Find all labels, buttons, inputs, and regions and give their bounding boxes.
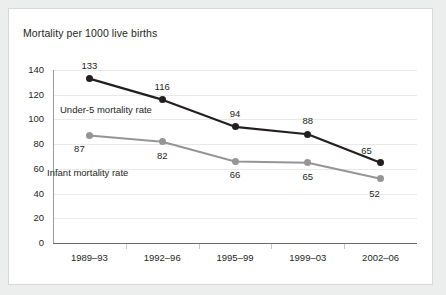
- data-value-label: 88: [288, 116, 328, 126]
- data-value-label: 66: [215, 170, 255, 180]
- chart-figure: Mortality per 1000 live births 020406080…: [0, 0, 446, 295]
- data-value-label: 65: [347, 146, 387, 156]
- series-annotation-0: Under-5 mortality rate: [60, 104, 152, 115]
- data-value-label: 82: [142, 151, 182, 161]
- data-point: [232, 158, 239, 165]
- data-value-label: 94: [215, 109, 255, 119]
- series-line-0: [89, 79, 380, 163]
- series-annotation-1: Infant mortality rate: [47, 167, 128, 178]
- data-value-label: 65: [288, 172, 328, 182]
- data-value-label: 87: [59, 144, 99, 154]
- data-value-label: 116: [142, 82, 182, 92]
- data-point: [159, 138, 166, 145]
- plot-area: 0204060801001201401989–931992–961995–991…: [0, 0, 446, 295]
- data-point: [86, 75, 93, 82]
- data-point: [86, 132, 93, 139]
- data-value-label: 52: [355, 189, 395, 199]
- data-point: [232, 123, 239, 130]
- data-point: [159, 96, 166, 103]
- data-value-label: 133: [69, 61, 109, 71]
